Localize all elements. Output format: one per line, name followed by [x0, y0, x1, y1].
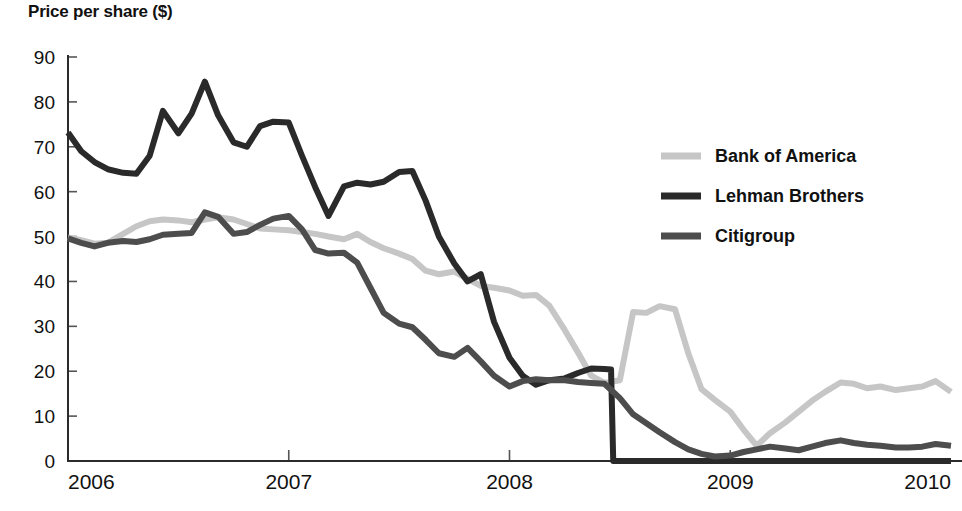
x-tick-label: 2009	[707, 470, 754, 493]
legend-label: Lehman Brothers	[715, 186, 864, 206]
y-tick-label: 30	[34, 316, 55, 337]
y-tick-label: 0	[44, 451, 55, 472]
legend-swatch	[661, 233, 701, 240]
y-tick-label: 40	[34, 271, 55, 292]
legend-label: Bank of America	[715, 146, 857, 166]
chart-legend: Bank of AmericaLehman BrothersCitigroup	[661, 146, 864, 246]
y-tick-label: 60	[34, 182, 55, 203]
y-tick-label: 10	[34, 406, 55, 427]
y-tick-label: 90	[34, 47, 55, 68]
chart-container: Price per share ($) 0102030405060708090 …	[0, 0, 962, 511]
axis-lines	[68, 55, 962, 461]
y-tick-label: 70	[34, 137, 55, 158]
x-tick-label: 2006	[68, 470, 115, 493]
legend-label: Citigroup	[715, 226, 795, 246]
x-tick-label: 2010	[904, 470, 951, 493]
legend-swatch	[661, 153, 701, 160]
y-tick-label: 80	[34, 92, 55, 113]
y-axis-ticks: 0102030405060708090	[34, 47, 77, 472]
x-tick-label: 2007	[265, 470, 312, 493]
legend-swatch	[661, 193, 701, 200]
data-series-group	[68, 82, 951, 461]
x-axis-ticks: 20062007200820092010	[68, 450, 951, 493]
y-tick-label: 50	[34, 227, 55, 248]
series-line-bank-of-america	[68, 217, 951, 445]
series-line-lehman-brothers	[68, 82, 951, 461]
y-tick-label: 20	[34, 361, 55, 382]
line-chart-plot: 0102030405060708090 20062007200820092010…	[0, 0, 962, 511]
series-line-citigroup	[68, 212, 951, 456]
x-tick-label: 2008	[486, 470, 533, 493]
